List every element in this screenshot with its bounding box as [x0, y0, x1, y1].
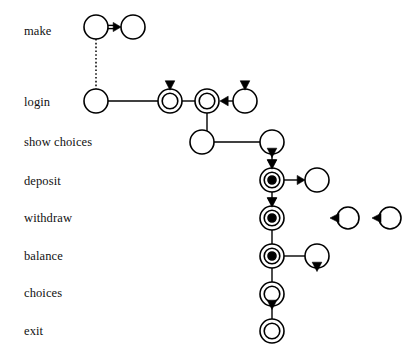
node-ring-0 [121, 15, 145, 39]
node-deposit-main[interactable] [260, 160, 284, 192]
arrowhead-right-icon [113, 22, 121, 31]
node-choices-main[interactable] [260, 282, 284, 310]
edge-make-left-to-make-right [108, 22, 121, 31]
row-label-choices: choices [24, 287, 62, 300]
row-label-withdraw: withdraw [24, 212, 72, 225]
node-ring-1 [162, 93, 178, 109]
row-label-make: make [24, 25, 51, 38]
triangle-left-icon [330, 213, 339, 222]
node-ring-0 [305, 168, 329, 192]
triangle-left-icon [372, 213, 381, 222]
node-ring-0 [379, 207, 401, 229]
node-make-left[interactable] [84, 15, 108, 39]
node-login-right[interactable] [195, 89, 219, 113]
node-make-right[interactable] [121, 15, 145, 39]
node-ring-0 [337, 207, 359, 229]
node-balance-target[interactable] [305, 244, 329, 272]
node-ring-0 [84, 89, 108, 113]
node-login-source[interactable] [233, 81, 257, 113]
node-ring-0 [84, 15, 108, 39]
row-label-balance: balance [24, 250, 63, 263]
arrowhead-left-icon [220, 96, 228, 106]
row-label-show-choices: show choices [24, 136, 92, 149]
node-login-left[interactable] [84, 89, 108, 113]
node-ring-0 [233, 89, 257, 113]
row-label-login: login [24, 96, 50, 109]
edge-deposit-to-target [284, 175, 305, 184]
node-token-dot [269, 253, 276, 260]
node-layer [84, 15, 401, 343]
node-exit-main[interactable] [260, 319, 284, 343]
node-ring-1 [199, 93, 215, 109]
diagram-canvas: makeloginshow choicesdepositwithdrawbala… [0, 0, 411, 356]
node-deposit-target[interactable] [305, 168, 329, 192]
arrowhead-right-icon [297, 175, 305, 184]
graph-svg [0, 0, 411, 356]
node-login-mid[interactable] [158, 81, 182, 113]
node-ring-0 [190, 130, 214, 154]
node-ring-1 [264, 323, 280, 339]
node-withdraw-extra-2[interactable] [372, 207, 401, 229]
node-withdraw-extra-1[interactable] [330, 207, 359, 229]
node-choices-right[interactable] [260, 130, 284, 158]
node-token-dot [269, 215, 276, 222]
edge-login-source-to-login-right [220, 96, 233, 106]
node-choices-left[interactable] [190, 130, 214, 154]
node-ring-1 [264, 286, 280, 302]
node-balance-main[interactable] [260, 244, 284, 268]
node-token-dot [269, 177, 276, 184]
node-withdraw-main[interactable] [260, 198, 284, 230]
row-label-deposit: deposit [24, 175, 61, 188]
row-label-exit: exit [24, 325, 43, 338]
